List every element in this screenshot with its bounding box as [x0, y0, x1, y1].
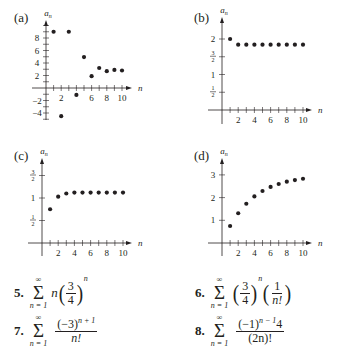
data-point	[59, 114, 63, 118]
svg-text:1: 1	[32, 214, 35, 220]
exercise-5: 5. ∞ Σ n = 1 n ( 34 ) n	[14, 276, 88, 310]
data-point	[260, 43, 264, 47]
fraction: 34	[66, 280, 76, 306]
svg-text:2: 2	[56, 248, 61, 258]
data-point	[301, 177, 305, 181]
svg-text:10: 10	[299, 248, 309, 258]
data-point	[89, 191, 93, 195]
exercise-number: 7.	[14, 323, 24, 339]
svg-text:2: 2	[211, 34, 216, 44]
data-point	[269, 185, 273, 189]
data-point	[252, 43, 256, 47]
svg-text:n: n	[138, 238, 143, 248]
svg-text:3: 3	[32, 169, 35, 175]
svg-text:−2: −2	[32, 96, 42, 106]
svg-text:an: an	[40, 146, 48, 157]
svg-text:an: an	[44, 8, 52, 19]
svg-text:2: 2	[32, 176, 35, 182]
svg-text:2: 2	[212, 57, 215, 63]
exercise-8: 8. ∞ Σ n = 1 (−1)n − 14 (2n)!	[195, 314, 284, 348]
summation-sign: ∞ Σ n = 1	[211, 276, 228, 310]
svg-text:4: 4	[252, 248, 257, 258]
chart-c-plot: ann24681032112	[0, 140, 170, 260]
svg-text:6: 6	[89, 93, 94, 103]
chart-b-plot: ann246810232112	[170, 0, 340, 135]
svg-text:3: 3	[212, 50, 215, 56]
chart-d: (d) ann246810321	[170, 140, 340, 260]
data-point	[293, 43, 297, 47]
exercise-number: 6.	[195, 285, 205, 301]
data-point	[236, 43, 240, 47]
svg-text:2: 2	[211, 193, 216, 203]
svg-text:10: 10	[118, 93, 128, 103]
svg-text:6: 6	[35, 46, 40, 56]
svg-text:10: 10	[299, 115, 309, 125]
data-point	[67, 30, 71, 34]
chart-a-plot: ann268108642−2−4	[0, 0, 170, 135]
chart-b: (b) ann246810232112	[170, 0, 340, 135]
svg-text:an: an	[220, 5, 228, 16]
data-point	[260, 189, 264, 193]
data-point	[285, 180, 289, 184]
fraction: (−1)n − 14 (2n)!	[236, 317, 284, 344]
data-point	[52, 30, 56, 34]
svg-text:4: 4	[72, 248, 77, 258]
data-point	[301, 43, 305, 47]
svg-text:8: 8	[285, 115, 290, 125]
summation-sign: ∞ Σ n = 1	[30, 276, 47, 310]
svg-text:2: 2	[236, 248, 241, 258]
data-point	[252, 194, 256, 198]
fraction: 1n!	[270, 280, 284, 306]
data-point	[56, 195, 60, 199]
exercise-number: 8.	[195, 323, 205, 339]
exercise-7: 7. ∞ Σ n = 1 (−3)n + 1 n!	[14, 314, 97, 348]
data-point	[82, 55, 86, 59]
svg-text:8: 8	[105, 248, 110, 258]
svg-text:4: 4	[252, 115, 257, 125]
svg-text:2: 2	[59, 93, 64, 103]
data-point	[97, 66, 101, 70]
chart-c: (c) ann24681032112	[0, 140, 170, 260]
data-point	[277, 43, 281, 47]
svg-text:2: 2	[236, 115, 241, 125]
chart-a: (a) ann268108642−2−4	[0, 0, 170, 135]
svg-text:1: 1	[211, 215, 216, 225]
data-point	[64, 191, 68, 195]
data-point	[120, 68, 124, 72]
data-point	[90, 74, 94, 78]
svg-text:8: 8	[285, 248, 290, 258]
svg-text:1: 1	[212, 85, 215, 91]
data-point	[105, 191, 109, 195]
data-point	[293, 178, 297, 182]
svg-text:6: 6	[88, 248, 93, 258]
data-point	[80, 191, 84, 195]
svg-text:4: 4	[35, 58, 40, 68]
svg-text:3: 3	[211, 170, 216, 180]
svg-text:−4: −4	[32, 108, 42, 118]
svg-text:8: 8	[35, 33, 40, 43]
data-point	[236, 211, 240, 215]
data-point	[105, 69, 109, 73]
data-point	[269, 43, 273, 47]
svg-text:2: 2	[32, 221, 35, 227]
chart-d-plot: ann246810321	[170, 140, 340, 260]
data-point	[244, 43, 248, 47]
data-point	[121, 191, 125, 195]
svg-text:2: 2	[35, 71, 40, 81]
svg-text:n: n	[318, 105, 323, 115]
data-point	[97, 191, 101, 195]
svg-text:an: an	[220, 146, 228, 157]
data-point	[48, 207, 52, 211]
data-point	[228, 37, 232, 41]
exercise-number: 5.	[14, 285, 24, 301]
data-point	[285, 43, 289, 47]
fraction: (−3)n + 1 n!	[55, 317, 97, 344]
svg-text:1: 1	[211, 70, 216, 80]
data-point	[113, 191, 117, 195]
fraction: 34	[240, 280, 250, 306]
svg-text:1: 1	[31, 193, 36, 203]
svg-text:8: 8	[105, 93, 110, 103]
summation-sign: ∞ Σ n = 1	[211, 314, 228, 348]
svg-text:6: 6	[268, 248, 273, 258]
exercise-6: 6. ∞ Σ n = 1 ( 34 ) n ( 1n! )	[195, 276, 292, 310]
